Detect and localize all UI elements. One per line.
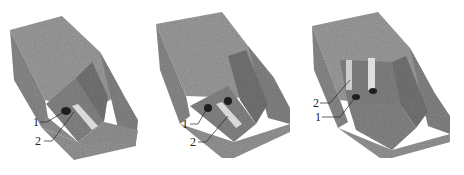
callout-label-2: 2 <box>190 136 196 148</box>
callout-label-1: 1 <box>182 118 188 130</box>
panel-a: 1 2 <box>0 0 155 175</box>
callout-label-2: 2 <box>35 135 41 147</box>
callout-label-1: 1 <box>315 111 321 123</box>
panel-c: 2 1 <box>300 0 455 175</box>
stone-block-model-b <box>150 0 305 175</box>
callout-label-1: 1 <box>33 116 39 128</box>
panel-b: 1 2 <box>150 0 305 175</box>
hole-feature-left <box>352 94 360 100</box>
callout-label-2: 2 <box>313 97 319 109</box>
vertical-slot-left <box>346 60 352 90</box>
stone-block-model-c <box>300 0 464 175</box>
hole-feature <box>61 107 71 115</box>
hole-feature-right <box>224 97 232 105</box>
stone-block-model-a <box>0 0 155 175</box>
vertical-slot-right <box>368 58 375 90</box>
hole-feature-right <box>369 88 377 94</box>
